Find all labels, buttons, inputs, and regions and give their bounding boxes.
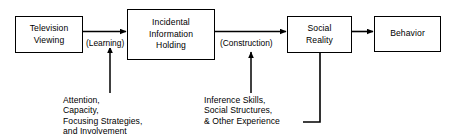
node-social-reality-label: Social Reality <box>306 23 333 46</box>
note-construction-factors: Inference Skills, Social Structures, & O… <box>204 95 280 126</box>
node-incidental-information-holding[interactable]: Incidental Information Holding <box>127 9 215 60</box>
line-social-reality-feedback <box>303 53 320 122</box>
node-behavior[interactable]: Behavior <box>374 16 441 52</box>
note-learning-factors: Attention, Capacity, Focusing Strategies… <box>63 95 142 137</box>
process-flow-diagram: Television Viewing Incidental Informatio… <box>0 0 454 140</box>
node-incidental-information-holding-label: Incidental Information Holding <box>149 17 193 51</box>
node-television-viewing[interactable]: Television Viewing <box>15 16 83 53</box>
edge-label-construction: (Construction) <box>219 39 274 48</box>
node-social-reality[interactable]: Social Reality <box>287 16 352 53</box>
node-behavior-label: Behavior <box>390 28 425 39</box>
edge-label-learning: (Learning) <box>85 39 125 48</box>
node-television-viewing-label: Television Viewing <box>30 23 69 46</box>
